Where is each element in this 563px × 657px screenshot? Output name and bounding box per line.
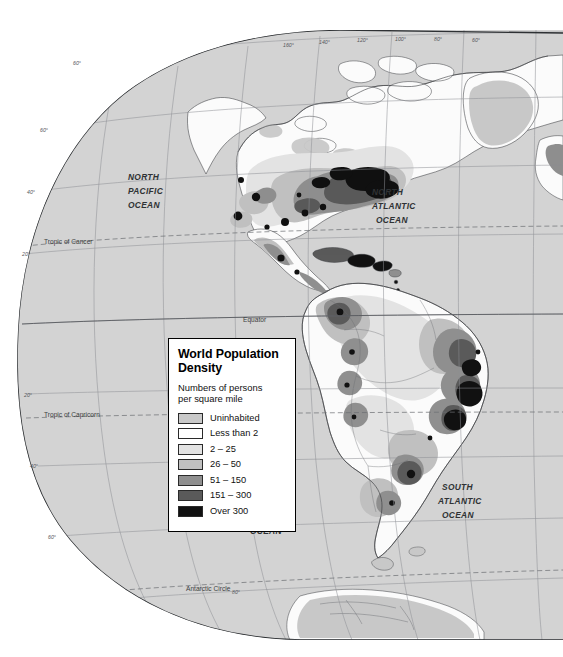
legend-swatch (178, 459, 203, 470)
svg-text:40°: 40° (27, 189, 35, 195)
svg-text:OCEAN: OCEAN (128, 200, 160, 210)
svg-text:ATLANTIC: ATLANTIC (371, 201, 416, 211)
legend-swatch (178, 413, 203, 424)
svg-text:120°: 120° (357, 37, 368, 43)
svg-text:OCEAN: OCEAN (442, 510, 474, 520)
legend-title: World Population Density (178, 347, 286, 376)
svg-text:20°: 20° (23, 392, 32, 398)
antarctic-circle-label: Antarctic Circle (186, 585, 231, 592)
legend-class-label: Over 300 (210, 507, 248, 516)
legend-title-line1: World Population (178, 347, 279, 361)
legend-swatch (178, 428, 203, 439)
tropic-of-cancer-label: Tropic of Cancer (44, 238, 93, 246)
legend-class-label: 151 – 300 (210, 491, 251, 500)
svg-text:160°: 160° (283, 42, 294, 48)
legend-title-line2: Density (178, 361, 222, 375)
legend-row: 2 – 25 (178, 442, 286, 458)
svg-text:OCEAN: OCEAN (376, 215, 408, 225)
legend-row: 26 – 50 (178, 457, 286, 473)
legend-row: Less than 2 (178, 426, 286, 442)
svg-text:100°: 100° (395, 36, 406, 42)
world-population-density-map: 160° 140° 120° 100° 80° 60° 60° 60° 40° … (0, 0, 563, 657)
legend-row: Over 300 (178, 504, 286, 520)
svg-text:40°: 40° (30, 463, 38, 469)
legend-row: 51 – 150 (178, 473, 286, 489)
legend-subtitle: Numbers of persons per square mile (178, 382, 286, 405)
svg-text:SOUTH: SOUTH (442, 482, 473, 492)
legend-class-label: 2 – 25 (210, 445, 236, 454)
guatemala-over-300 (294, 269, 299, 274)
legend-class-label: Uninhabited (210, 414, 260, 423)
svg-text:60°: 60° (472, 37, 480, 43)
svg-text:20°: 20° (21, 251, 30, 257)
svg-text:140°: 140° (319, 39, 330, 45)
legend-class-label: 26 – 50 (210, 460, 241, 469)
svg-text:80°: 80° (232, 589, 240, 595)
map-figure: 160° 140° 120° 100° 80° 60° 60° 60° 40° … (0, 0, 563, 657)
legend-swatch (178, 475, 203, 486)
svg-text:60°: 60° (73, 60, 81, 66)
legend-row: Uninhabited (178, 411, 286, 427)
svg-text:PACIFIC: PACIFIC (128, 186, 164, 196)
svg-text:NORTH: NORTH (128, 172, 160, 182)
legend-class-label: Less than 2 (210, 429, 258, 438)
legend-swatch (178, 506, 203, 517)
legend-swatch (178, 490, 203, 501)
legend-class-label: 51 – 150 (210, 476, 246, 485)
legend-row: 151 – 300 (178, 488, 286, 504)
svg-text:ATLANTIC: ATLANTIC (437, 496, 482, 506)
legend-subtitle-line1: Numbers of persons (178, 382, 262, 393)
equator-label: Equator (243, 316, 267, 324)
svg-text:60°: 60° (48, 534, 56, 540)
svg-text:NORTH: NORTH (372, 187, 404, 197)
legend-swatch (178, 444, 203, 455)
svg-text:60°: 60° (40, 127, 48, 133)
mexico-city-over-300 (277, 254, 284, 261)
legend-subtitle-line2: per square mile (178, 393, 243, 404)
ocean-label-north-pacific: NORTH PACIFIC OCEAN (128, 172, 164, 210)
svg-text:80°: 80° (434, 36, 442, 42)
tropic-of-capricorn-label: Tropic of Capricorn (44, 411, 100, 419)
falkland-islands (409, 547, 425, 556)
map-legend: World Population Density Numbers of pers… (168, 338, 296, 532)
